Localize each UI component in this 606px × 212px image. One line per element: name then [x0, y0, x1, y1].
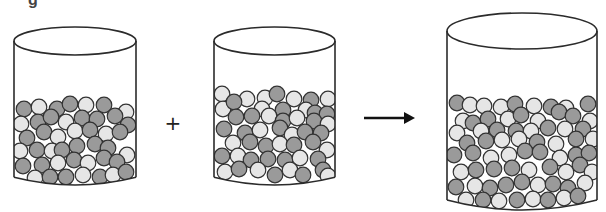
dark-ball — [580, 96, 596, 112]
dark-ball — [267, 167, 283, 183]
light-ball — [272, 136, 288, 152]
dark-ball — [468, 162, 484, 178]
light-ball — [494, 132, 510, 148]
light-ball — [320, 91, 336, 107]
dark-ball — [446, 147, 462, 163]
light-ball — [320, 168, 336, 184]
light-ball — [75, 167, 91, 183]
light-ball — [289, 110, 305, 126]
right-arrow-icon — [364, 112, 415, 124]
dark-ball — [486, 161, 502, 177]
dark-ball — [228, 109, 244, 125]
dark-ball — [66, 152, 82, 168]
light-ball — [50, 155, 66, 171]
dark-ball — [36, 124, 52, 140]
dark-ball — [216, 121, 232, 137]
dark-ball — [542, 159, 558, 175]
plus-sign: + — [165, 111, 182, 135]
dark-ball — [551, 104, 567, 120]
dark-ball — [43, 109, 59, 125]
dark-ball — [540, 120, 556, 136]
dark-ball — [58, 169, 74, 185]
light-ball — [530, 177, 546, 193]
dark-ball — [231, 161, 247, 177]
dark-ball — [82, 122, 98, 138]
dark-ball — [540, 192, 556, 208]
dark-ball — [62, 96, 78, 112]
dark-ball — [509, 192, 525, 208]
light-ball — [67, 123, 83, 139]
dark-ball — [517, 143, 533, 159]
dark-ball — [15, 158, 31, 174]
light-ball — [13, 116, 29, 132]
dark-ball — [514, 174, 530, 190]
dark-ball — [269, 86, 285, 102]
light-ball — [27, 170, 43, 186]
dark-ball — [532, 144, 548, 160]
light-ball — [491, 193, 507, 209]
light-ball — [548, 136, 564, 152]
dark-ball — [570, 188, 586, 204]
dark-ball — [242, 134, 258, 150]
dark-ball — [69, 138, 85, 154]
light-ball — [558, 164, 574, 180]
dark-ball — [498, 177, 514, 193]
dark-ball — [465, 145, 481, 161]
dark-ball — [295, 167, 311, 183]
left-beaker — [12, 27, 136, 186]
dark-ball — [214, 148, 230, 164]
light-ball — [556, 190, 572, 206]
dark-ball — [244, 108, 260, 124]
dark-ball — [448, 179, 464, 195]
light-ball — [217, 164, 233, 180]
dark-ball — [112, 124, 128, 140]
light-ball — [261, 108, 277, 124]
dark-ball — [513, 107, 529, 123]
dark-ball — [545, 176, 561, 192]
dark-ball — [118, 164, 134, 180]
dark-ball — [16, 101, 32, 117]
dark-ball — [305, 134, 321, 150]
light-ball — [250, 162, 266, 178]
dark-ball — [568, 131, 584, 147]
light-ball — [585, 131, 601, 147]
light-ball — [453, 164, 469, 180]
dark-ball — [478, 133, 494, 149]
light-ball — [467, 178, 483, 194]
right-beaker — [446, 13, 601, 210]
middle-beaker — [214, 27, 336, 185]
dark-ball — [226, 94, 242, 110]
dark-ball — [475, 192, 491, 208]
dark-ball — [29, 142, 45, 158]
dark-ball — [504, 160, 520, 176]
light-ball — [462, 97, 478, 113]
light-ball — [525, 191, 541, 207]
mixing-diagram: + — [0, 0, 606, 212]
